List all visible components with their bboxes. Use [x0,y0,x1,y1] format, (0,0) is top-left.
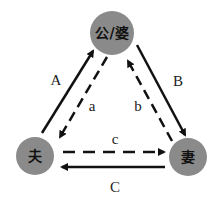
edge-C-label: C [110,179,120,195]
node-wife-label: 妻 [181,149,195,165]
edge-a-dashed-arrow [60,57,107,137]
edge-b-label: b [134,98,142,114]
edge-B-label: B [173,73,183,89]
edge-a-label: a [89,98,96,114]
node-husband-label: 夫 [28,148,43,164]
edge-A-label: A [51,72,62,88]
family-relationship-diagram: 公/婆 夫 妻 A a B b c C [0,0,220,204]
node-parents-in-law-label: 公/婆 [95,25,128,41]
edge-c-label: c [112,131,119,147]
